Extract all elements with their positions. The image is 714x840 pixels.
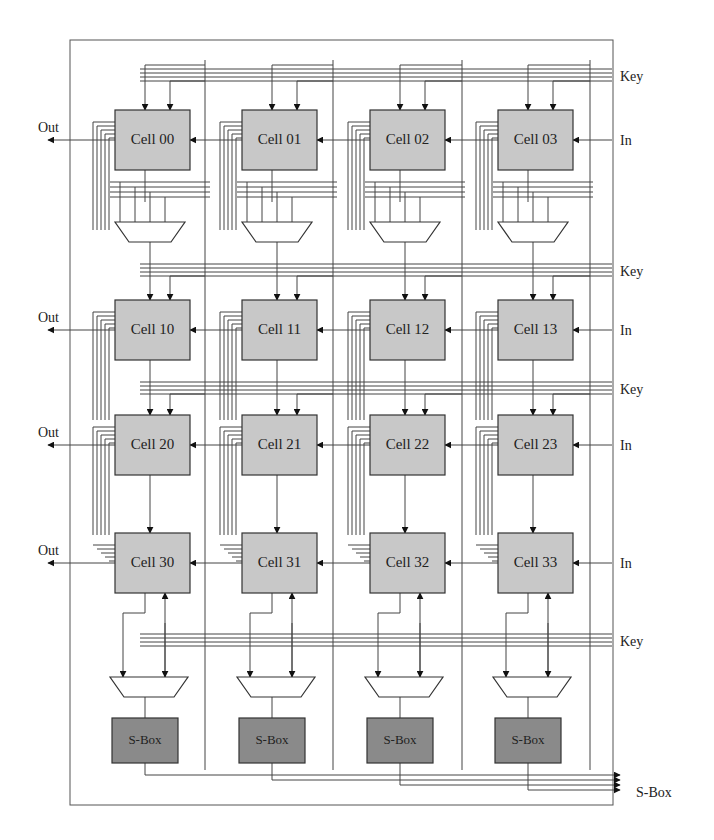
sbox-label: S-Box [383, 732, 417, 747]
feedback-bundle-wire [352, 431, 370, 535]
out-label: Out [38, 425, 59, 440]
feedback-bundle-wire [228, 435, 242, 535]
key-label: Key [620, 634, 643, 649]
cell-label: Cell 30 [131, 554, 175, 570]
cell-23: Cell 23 [498, 415, 573, 475]
feedback-bundle-wire [492, 138, 498, 230]
cell-label: Cell 03 [514, 131, 558, 147]
feedback-bundle-wire [492, 443, 498, 535]
cell-33: Cell 33 [498, 533, 573, 593]
feedback-bundle-wire [356, 130, 370, 230]
sbox-row: S-BoxS-BoxS-BoxS-Box [112, 718, 561, 763]
feedback-bundle-wire [109, 328, 115, 420]
cell-label: Cell 13 [514, 321, 558, 337]
column-mux-top [115, 222, 185, 242]
cell-to-mux-wire [506, 593, 528, 677]
in-label: In [620, 323, 632, 338]
feedback-bundle-wire [484, 320, 498, 420]
cell-11: Cell 11 [242, 300, 317, 360]
cell-label: Cell 22 [386, 436, 430, 452]
key-input-wire [297, 394, 333, 415]
feedback-bundle-wire [484, 130, 498, 230]
cell-01: Cell 01 [242, 110, 317, 170]
cell-label: Cell 20 [131, 436, 175, 452]
cell-00: Cell 00 [115, 110, 190, 170]
feedback-bundle-wire [97, 431, 115, 535]
sbox-output-wire [400, 763, 620, 785]
column-mux-top [370, 222, 440, 242]
cell-12: Cell 12 [370, 300, 445, 360]
in-label: In [620, 556, 632, 571]
in-label: In [620, 133, 632, 148]
cell-30: Cell 30 [115, 533, 190, 593]
feedback-bundle-wire [232, 439, 242, 535]
key-label: Key [620, 264, 643, 279]
cell-label: Cell 10 [131, 321, 175, 337]
cell-label: Cell 33 [514, 554, 558, 570]
feedback-bundle-wire [356, 320, 370, 420]
feedback-bundle-wire [236, 443, 242, 535]
column-mux-top [498, 222, 568, 242]
column-mux-bottom [365, 677, 443, 697]
cell-to-mux-wire [123, 593, 145, 677]
cell-label: Cell 31 [258, 554, 302, 570]
feedback-bundle-wire [236, 138, 242, 230]
key-label: Key [620, 382, 643, 397]
cell-label: Cell 00 [131, 131, 175, 147]
feedback-bundle-wire [356, 435, 370, 535]
feedback-bundle-wire [488, 324, 498, 420]
feedback-bundle-wire [232, 324, 242, 420]
feedback-bundle-wire [364, 328, 370, 420]
feedback-bundle-wire [360, 439, 370, 535]
feedback-bundle-wire [97, 126, 115, 230]
feedback-bundle-wire [224, 316, 242, 420]
column-mux-bottom [493, 677, 571, 697]
cell-label: Cell 12 [386, 321, 430, 337]
feedback-bundle-wire [360, 324, 370, 420]
key-input-wire [425, 394, 462, 415]
cell-22: Cell 22 [370, 415, 445, 475]
key-label: Key [620, 69, 643, 84]
feedback-bundle-wire [364, 138, 370, 230]
cell-32: Cell 32 [370, 533, 445, 593]
key-input-wire [145, 65, 205, 110]
feedback-bundle-wire [488, 439, 498, 535]
out-label: Out [38, 543, 59, 558]
in-label: In [620, 438, 632, 453]
feedback-bundle-wire [228, 130, 242, 230]
feedback-bundle-wire [109, 138, 115, 230]
column-mux-bottom [110, 677, 188, 697]
cell-02: Cell 02 [370, 110, 445, 170]
cell-21: Cell 21 [242, 415, 317, 475]
feedback-bundle-wire [109, 443, 115, 535]
key-input-wire [400, 65, 462, 110]
sbox-3: S-Box [495, 718, 561, 763]
feedback-bundle-wire [101, 320, 115, 420]
feedback-bundle-wire [101, 435, 115, 535]
sbox-label: S-Box [255, 732, 289, 747]
key-input-wire [170, 394, 205, 415]
cell-label: Cell 01 [258, 131, 302, 147]
cell-to-mux-wire [378, 593, 400, 677]
column-mux-top [242, 222, 312, 242]
aes-cell-array-diagram: Cell 00Cell 01Cell 02Cell 03Cell 10Cell … [0, 0, 714, 840]
feedback-bundle-wire [105, 439, 115, 535]
cell-20: Cell 20 [115, 415, 190, 475]
cell-label: Cell 23 [514, 436, 558, 452]
feedback-bundle-wire [224, 126, 242, 230]
cell-03: Cell 03 [498, 110, 573, 170]
key-input-wire [553, 394, 590, 415]
key-input-wire [297, 276, 333, 300]
feedback-bundle-wire [228, 320, 242, 420]
sbox-output-wire [145, 763, 620, 775]
cell-10: Cell 10 [115, 300, 190, 360]
feedback-bundle-wire [492, 328, 498, 420]
feedback-bundle-wire [480, 126, 498, 230]
key-input-wire [528, 65, 590, 110]
sbox-output-wire [272, 763, 620, 780]
cell-label: Cell 02 [386, 131, 430, 147]
cell-label: Cell 11 [258, 321, 301, 337]
feedback-bundle-wire [101, 130, 115, 230]
feedback-bundle-wire [352, 126, 370, 230]
cell-13: Cell 13 [498, 300, 573, 360]
